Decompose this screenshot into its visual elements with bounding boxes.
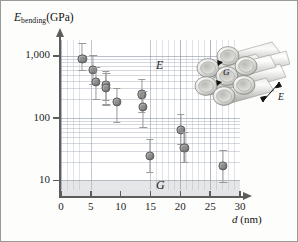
error-bar-cap-upper xyxy=(146,139,153,140)
data-point xyxy=(116,88,117,123)
error-bar-cap-lower xyxy=(140,127,147,128)
error-bar-cap-lower xyxy=(113,122,120,123)
y-axis-title-unit: (GPa) xyxy=(46,11,73,23)
gridline-horizontal xyxy=(61,143,240,144)
x-tick-label: 20 xyxy=(165,200,195,212)
data-point xyxy=(106,73,107,106)
y-tick-mark xyxy=(53,117,60,119)
y-tick-mark xyxy=(53,180,60,182)
x-axis-title-unit: (nm) xyxy=(240,213,261,225)
inset-label-E: E xyxy=(277,92,284,102)
y-tick-mark xyxy=(53,55,60,57)
data-point xyxy=(96,67,97,100)
x-axis-title-symbol: d xyxy=(232,213,238,225)
gridline-horizontal xyxy=(61,132,240,133)
x-tick-mark xyxy=(120,191,122,198)
y-axis-title: Ebending(GPa) xyxy=(14,11,74,25)
x-tick-label: 30 xyxy=(225,200,255,212)
inset-nanotube-bundle-illustration: G E xyxy=(186,38,290,114)
data-point xyxy=(143,91,144,127)
gridline-horizontal xyxy=(61,124,240,125)
y-axis-title-subscript: bending xyxy=(21,16,46,25)
error-bar-cap-lower xyxy=(181,162,188,163)
x-tick-mark xyxy=(209,191,211,198)
figure-panel: 1,00010010 051015202530 Ebending(GPa) d … xyxy=(0,0,298,242)
x-tick-label: 10 xyxy=(106,200,136,212)
x-tick-mark xyxy=(150,191,152,198)
annotation-E: E xyxy=(156,58,163,73)
error-bar-cap-upper xyxy=(140,91,147,92)
error-bar-cap-upper xyxy=(89,55,96,56)
gridline-horizontal xyxy=(61,128,240,129)
error-bar-cap-upper xyxy=(103,73,110,74)
error-bar-cap-upper xyxy=(219,150,226,151)
error-bar-cap-upper xyxy=(138,79,145,80)
x-tick-label: 5 xyxy=(76,200,106,212)
gridline-horizontal xyxy=(61,162,240,163)
error-bar-cap-lower xyxy=(219,182,226,183)
error-bar-cap-upper xyxy=(113,88,120,89)
data-point xyxy=(184,132,185,163)
error-bar-cap-lower xyxy=(79,70,86,71)
y-axis-arrow-icon xyxy=(56,28,64,37)
error-bar-cap-lower xyxy=(92,99,99,100)
y-tick-label: 100 xyxy=(0,111,50,123)
x-tick-mark xyxy=(180,191,182,198)
y-tick-label: 10 xyxy=(0,173,50,185)
x-tick-mark xyxy=(90,191,92,198)
error-bar-cap-lower xyxy=(103,104,110,105)
x-tick-mark xyxy=(60,191,62,198)
gridline-horizontal xyxy=(61,121,240,122)
annotation-G: G xyxy=(156,178,165,193)
error-bar-cap-lower xyxy=(146,172,153,173)
data-point xyxy=(82,43,83,71)
data-point xyxy=(223,150,224,183)
x-axis-line xyxy=(59,196,245,198)
y-tick-label: 1,000 xyxy=(0,48,50,60)
error-bar-cap-upper xyxy=(92,67,99,68)
error-bar-cap-upper xyxy=(177,114,184,115)
gridline-horizontal xyxy=(61,118,240,119)
x-axis-title: d (nm) xyxy=(232,213,262,225)
data-point xyxy=(180,114,181,145)
error-bar-cap-upper xyxy=(79,43,86,44)
nanotube-bundle-icon: G E xyxy=(186,38,290,114)
x-tick-label: 25 xyxy=(195,200,225,212)
x-tick-label: 15 xyxy=(136,200,166,212)
data-point xyxy=(149,139,150,174)
error-bar-cap-upper xyxy=(181,132,188,133)
inset-label-G: G xyxy=(223,67,230,77)
x-tick-mark xyxy=(239,191,241,198)
x-tick-label: 0 xyxy=(46,200,76,212)
y-axis-title-symbol: E xyxy=(14,11,21,23)
